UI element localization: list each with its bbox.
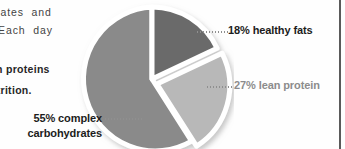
leader-line-lean-protein: [206, 86, 234, 88]
label-lean-protein: 27% lean protein: [234, 79, 320, 91]
label-complex-carbohydrates: 55% complex carbohydrates: [6, 111, 102, 141]
body-text-line-4: utrition.: [0, 84, 32, 96]
body-text-line-3: n proteins: [0, 63, 50, 75]
leader-line-complex-carbohydrates: [104, 118, 142, 120]
label-complex-carbohydrates-line-2: carbohydrates: [27, 127, 102, 139]
pie-chart-figure: rates and Each day n proteins utrition.: [0, 0, 345, 149]
body-text-line-2: Each day: [0, 24, 53, 36]
column-rule: [339, 0, 341, 149]
leader-line-healthy-fats: [196, 31, 228, 33]
body-text-line-1: rates and: [0, 6, 52, 18]
label-complex-carbohydrates-line-1: 55% complex: [33, 112, 102, 124]
label-healthy-fats: 18% healthy fats: [228, 24, 313, 36]
